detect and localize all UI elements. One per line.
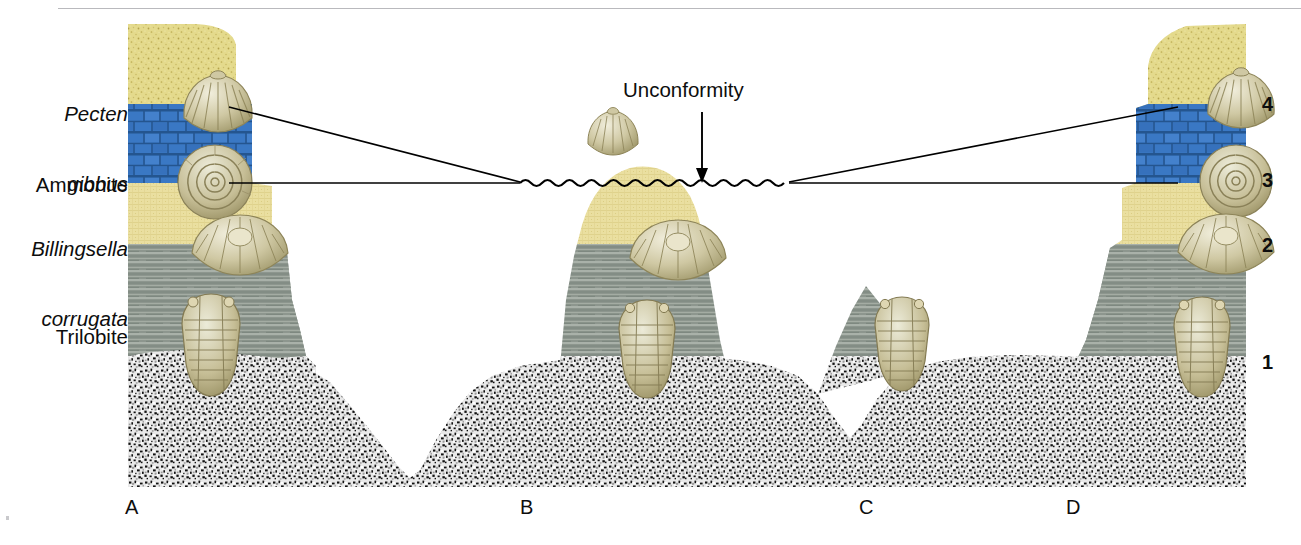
- section-letter-a: A: [125, 496, 138, 519]
- fossil-trilobite-b: [619, 300, 675, 398]
- label-trilobite-line1: Trilobite: [0, 325, 128, 348]
- correlation-line-right-upper: [789, 107, 1178, 182]
- fossil-trilobite-left: [182, 294, 240, 396]
- layer-number-4: 4: [1262, 93, 1273, 116]
- fossil-trilobite-right: [1174, 297, 1230, 397]
- label-billingsella-line1: Billingsella: [0, 237, 128, 260]
- fossil-ammonite-left: [178, 145, 252, 219]
- section-letter-d: D: [1066, 496, 1080, 519]
- label-pecten-line1: Pecten: [0, 102, 128, 125]
- label-unconformity: Unconformity: [623, 78, 744, 101]
- layer-number-2: 2: [1262, 234, 1273, 257]
- layer-number-1: 1: [1262, 351, 1273, 374]
- section-letter-c: C: [859, 496, 873, 519]
- unconformity-arrow: [696, 112, 708, 183]
- label-trilobite: Trilobite: [0, 278, 128, 395]
- correlation-line-left-upper: [229, 107, 520, 182]
- fossil-pecten-floating: [588, 108, 638, 156]
- section-letter-b: B: [520, 496, 533, 519]
- figure-canvas: Pecten gibbus Ammonite Billingsella corr…: [0, 0, 1301, 545]
- layer-number-3: 3: [1262, 169, 1273, 192]
